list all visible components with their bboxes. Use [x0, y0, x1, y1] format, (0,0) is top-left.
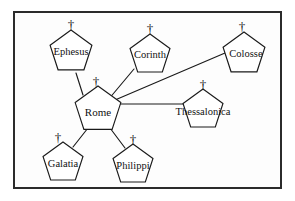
cross-icon: †	[147, 21, 154, 36]
church-network-diagram: †Ephesus†Corinth†Colosse†Rome†Thessaloni…	[0, 0, 295, 201]
city-label-thessalonica: Thessalonica	[176, 106, 231, 117]
cross-icon: †	[239, 19, 246, 34]
cross-icon: †	[130, 132, 137, 147]
diagram-canvas: †Ephesus†Corinth†Colosse†Rome†Thessaloni…	[0, 0, 295, 201]
city-label-corinth: Corinth	[134, 49, 167, 60]
city-label-galatia: Galatia	[48, 158, 79, 169]
city-label-colosse: Colosse	[229, 48, 263, 59]
city-label-philippi: Philippi	[116, 160, 149, 171]
city-label-ephesus: Ephesus	[54, 46, 89, 57]
cross-icon: †	[200, 77, 207, 92]
cross-icon: †	[93, 74, 100, 89]
city-label-rome: Rome	[85, 106, 111, 118]
cross-icon: †	[68, 17, 75, 32]
cross-icon: †	[55, 130, 62, 145]
